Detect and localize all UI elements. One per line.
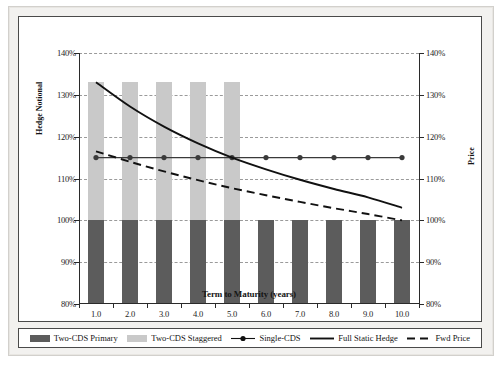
x-axis-title: Term to Maturity (years) xyxy=(79,289,419,299)
y-axis-left-line xyxy=(79,53,80,304)
plot-area: 80%90%100%110%120%130%140% 80%90%100%110… xyxy=(79,53,419,304)
chart-page: Hedge Notional Price 80%90%100%110%120%1… xyxy=(0,0,500,381)
y-axis-right-tick xyxy=(419,95,424,96)
line-full-static-hedge xyxy=(96,82,402,208)
y-axis-right-line xyxy=(419,53,420,304)
y-axis-right-tick xyxy=(419,262,424,263)
y-axis-right-label: 140% xyxy=(426,48,445,58)
y-axis-left-label: 100% xyxy=(57,215,76,225)
legend-item-two-cds-staggered[interactable]: Two-CDS Staggered xyxy=(127,333,221,343)
y-axis-right-label: 110% xyxy=(426,174,445,184)
x-axis-label: 4.0 xyxy=(181,309,215,319)
legend-label: Full Static Hedge xyxy=(338,333,398,343)
x-axis-label: 1.0 xyxy=(79,309,113,319)
line-series-layer xyxy=(79,53,419,304)
legend-swatch-staggered-icon xyxy=(127,335,147,342)
x-axis-tick xyxy=(215,304,216,308)
y-axis-left-label: 80% xyxy=(61,299,76,309)
chart-legend: Two-CDS PrimaryTwo-CDS StaggeredSingle-C… xyxy=(18,328,482,348)
marker-single-cds xyxy=(331,155,336,160)
y-axis-right-label: 90% xyxy=(426,257,441,267)
legend-label: Two-CDS Staggered xyxy=(151,333,221,343)
marker-single-cds xyxy=(297,155,302,160)
x-axis-label: 3.0 xyxy=(147,309,181,319)
x-axis-label: 5.0 xyxy=(215,309,249,319)
legend-item-two-cds-primary[interactable]: Two-CDS Primary xyxy=(30,333,118,343)
legend-line-marker-icon xyxy=(231,334,255,343)
y-axis-right-tick xyxy=(419,179,424,180)
marker-single-cds xyxy=(195,155,200,160)
legend-line-dashed-icon xyxy=(407,334,431,343)
marker-single-cds xyxy=(161,155,166,160)
x-axis-label: 10.0 xyxy=(385,309,419,319)
legend-item-full-static-hedge[interactable]: Full Static Hedge xyxy=(310,333,398,343)
legend-item-fwd-price[interactable]: Fwd Price xyxy=(407,333,470,343)
marker-single-cds xyxy=(263,155,268,160)
y-axis-right-tick xyxy=(419,137,424,138)
x-axis-label: 9.0 xyxy=(351,309,385,319)
y-axis-left-label: 130% xyxy=(57,90,76,100)
x-axis-label: 8.0 xyxy=(317,309,351,319)
x-axis-tick xyxy=(419,304,420,308)
legend-label: Single-CDS xyxy=(259,333,300,343)
y-axis-left-label: 120% xyxy=(57,132,76,142)
y-axis-right-label: 80% xyxy=(426,299,441,309)
x-axis-tick xyxy=(385,304,386,308)
y-axis-title-left: Hedge Notional xyxy=(35,82,44,135)
y-axis-right-tick xyxy=(419,220,424,221)
x-axis-tick xyxy=(351,304,352,308)
marker-single-cds xyxy=(399,155,404,160)
x-axis-tick xyxy=(79,304,80,308)
y-axis-left-label: 90% xyxy=(61,257,76,267)
x-axis-tick xyxy=(113,304,114,308)
legend-swatch-primary-icon xyxy=(30,335,50,342)
y-axis-right-label: 130% xyxy=(426,90,445,100)
y-axis-right-tick xyxy=(419,53,424,54)
marker-single-cds xyxy=(127,155,132,160)
y-axis-right-label: 120% xyxy=(426,132,445,142)
x-axis-tick xyxy=(283,304,284,308)
marker-single-cds xyxy=(365,155,370,160)
y-axis-left-label: 140% xyxy=(57,48,76,58)
x-axis-label: 6.0 xyxy=(249,309,283,319)
legend-label: Two-CDS Primary xyxy=(54,333,118,343)
x-axis-tick xyxy=(249,304,250,308)
legend-item-single-cds[interactable]: Single-CDS xyxy=(231,333,300,343)
y-axis-right-label: 100% xyxy=(426,215,445,225)
legend-label: Fwd Price xyxy=(435,333,470,343)
x-axis-label: 2.0 xyxy=(113,309,147,319)
y-axis-left-label: 110% xyxy=(57,174,76,184)
marker-single-cds xyxy=(93,155,98,160)
x-axis-tick xyxy=(147,304,148,308)
x-axis-tick xyxy=(317,304,318,308)
y-axis-title-right: Price xyxy=(467,147,476,165)
legend-line-solid-icon xyxy=(310,334,334,343)
x-axis-tick xyxy=(181,304,182,308)
chart-plot-card: Hedge Notional Price 80%90%100%110%120%1… xyxy=(18,16,482,322)
x-axis-label: 7.0 xyxy=(283,309,317,319)
line-fwd-price xyxy=(96,151,402,220)
